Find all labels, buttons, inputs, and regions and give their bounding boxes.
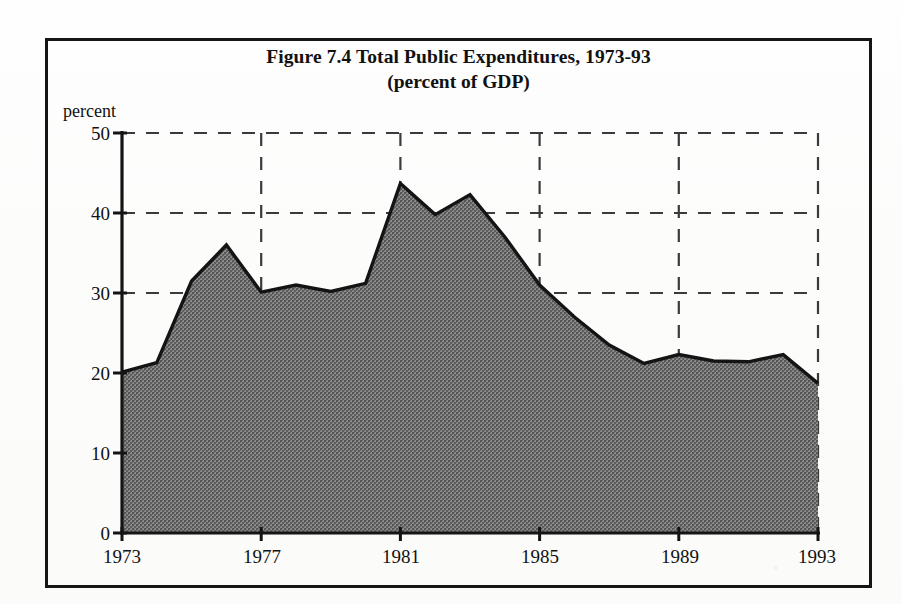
area-chart-plot: [0, 0, 902, 604]
expenditure-area: [122, 183, 818, 533]
